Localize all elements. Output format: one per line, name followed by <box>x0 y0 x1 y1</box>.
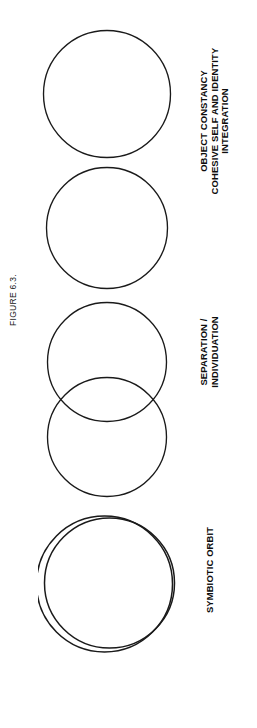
stage-label-line-2: INDIVIDUATION <box>210 252 221 452</box>
diagram-canvas <box>38 0 184 728</box>
figure-page: FIGURE 6.3. OBJECT CONSTANCY COHESIVE SE… <box>0 0 257 728</box>
diagram-svg <box>38 0 184 728</box>
stage-label-line-1: SYMBIOTIC ORBIT <box>205 495 216 645</box>
symbiotic-circle-inner <box>45 518 175 648</box>
object-constancy-circle-lower <box>47 168 168 289</box>
stage-label-separation-individuation: SEPARATION / INDIVIDUATION <box>199 252 220 452</box>
object-constancy-circle-upper <box>44 31 171 158</box>
symbiotic-orbit-shape <box>38 516 175 652</box>
figure-caption: FIGURE 6.3. <box>0 196 26 326</box>
stage-label-object-constancy: OBJECT CONSTANCY COHESIVE SELF AND IDENT… <box>199 6 231 236</box>
stage-label-line-3: INTEGRATION <box>220 6 231 236</box>
stage-label-line-1: SEPARATION / <box>199 252 210 452</box>
separation-individuation-shape <box>48 303 167 497</box>
stage-label-symbiotic-orbit: SYMBIOTIC ORBIT <box>205 495 216 645</box>
object-constancy-shape <box>44 31 171 289</box>
stage-label-line-1: OBJECT CONSTANCY <box>199 6 210 236</box>
separation-circle-lower <box>48 378 167 497</box>
separation-circle-upper <box>48 303 167 422</box>
